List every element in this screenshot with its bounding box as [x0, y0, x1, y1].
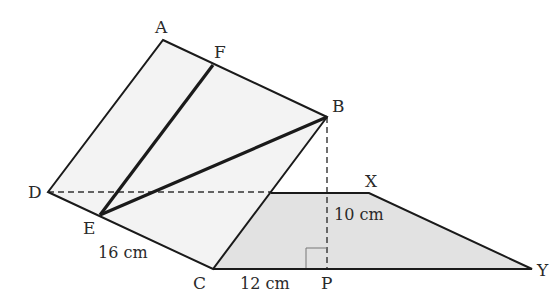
measure-ec: 16 cm: [98, 243, 148, 262]
geometry-diagram: A F B D E C P X Y 16 cm 10 cm 12 cm: [0, 0, 558, 305]
label-c: C: [193, 273, 206, 293]
label-d: D: [28, 182, 42, 202]
label-a: A: [154, 17, 168, 37]
label-y: Y: [536, 260, 549, 280]
label-x: X: [365, 171, 378, 191]
label-p: P: [321, 273, 332, 293]
measure-bp: 10 cm: [334, 205, 384, 224]
label-e: E: [83, 218, 95, 238]
label-b: B: [332, 96, 345, 116]
measure-cp: 12 cm: [240, 274, 290, 293]
label-f: F: [214, 42, 226, 62]
